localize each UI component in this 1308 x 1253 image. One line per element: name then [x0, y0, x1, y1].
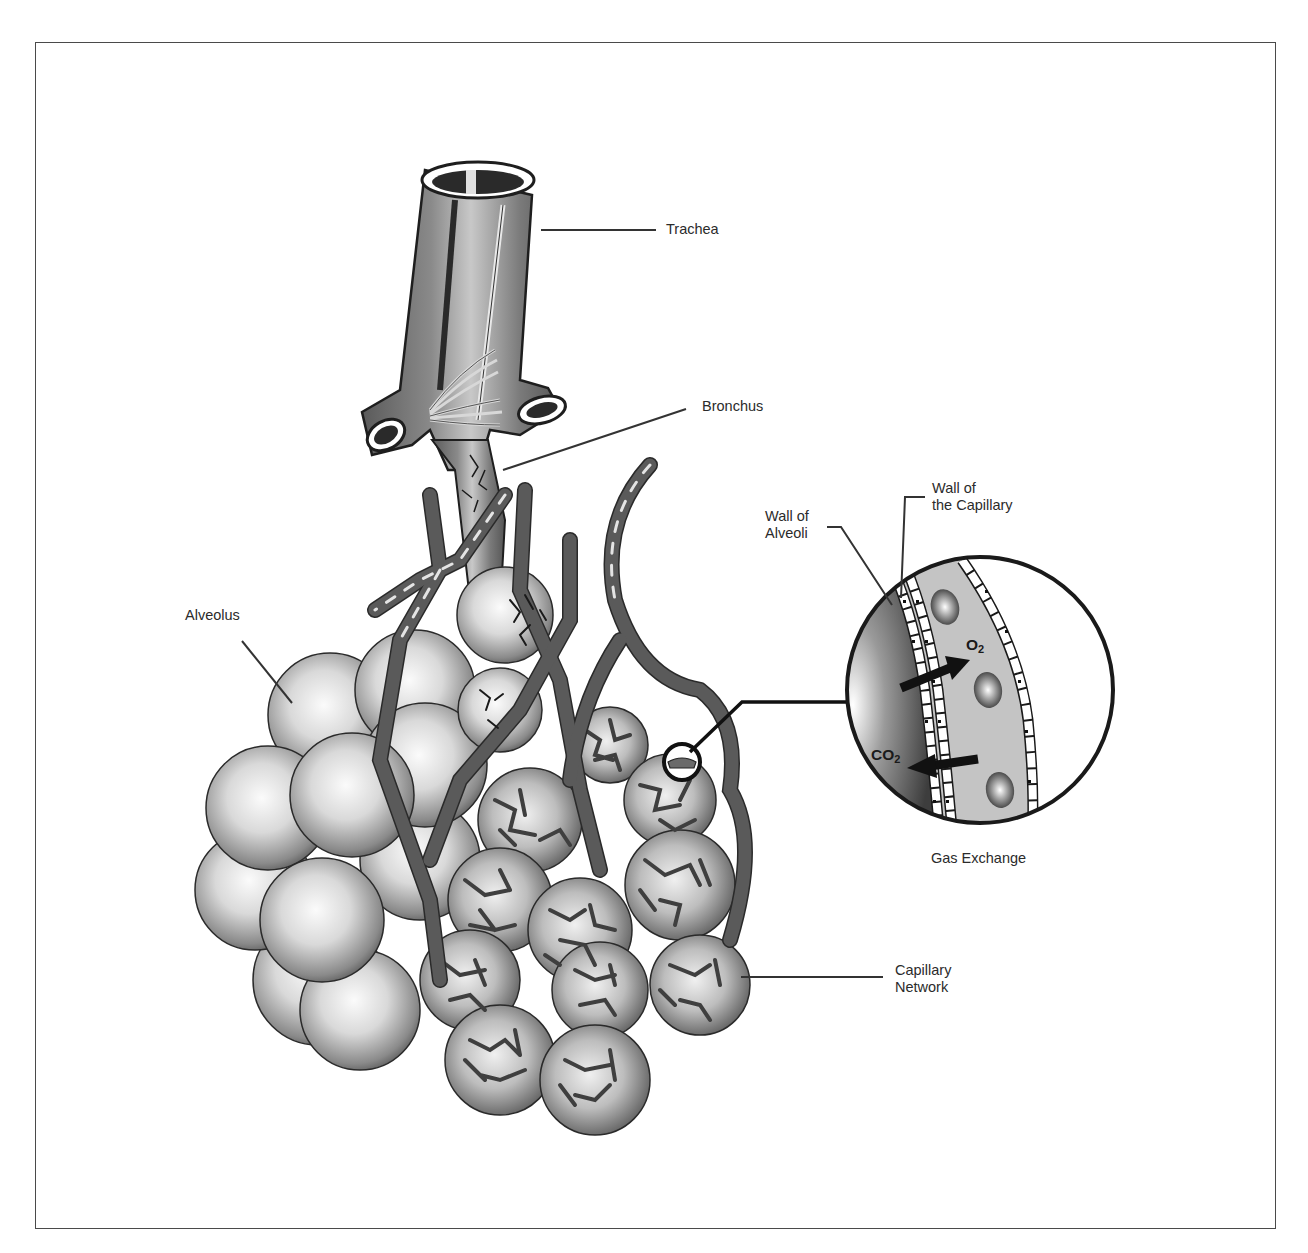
wall-of-alveoli-leader [827, 527, 892, 605]
carbon-dioxide-symbol: CO [871, 746, 894, 763]
magnifier-pointer [664, 702, 848, 780]
label-bronchus: Bronchus [702, 398, 763, 415]
label-wall-of-capillary-line1: Wall of [932, 480, 1013, 497]
label-wall-of-alveoli-line1: Wall of [765, 508, 809, 525]
label-oxygen: O2 [966, 636, 984, 658]
oxygen-symbol: O [966, 636, 978, 653]
label-wall-of-alveoli-line2: Alveoli [765, 525, 809, 542]
label-wall-of-capillary-line2: the Capillary [932, 497, 1013, 514]
label-wall-of-alveoli: Wall of Alveoli [765, 508, 809, 542]
gas-exchange-magnifier [830, 540, 1113, 840]
oxygen-subscript: 2 [978, 643, 984, 655]
carbon-dioxide-subscript: 2 [894, 753, 900, 765]
label-capillary-network-line1: Capillary [895, 962, 951, 979]
label-carbon-dioxide: CO2 [871, 746, 900, 768]
label-wall-of-capillary: Wall of the Capillary [932, 480, 1013, 514]
trachea-shape [362, 162, 569, 470]
label-capillary-network: Capillary Network [895, 962, 951, 996]
label-alveolus: Alveolus [185, 607, 240, 624]
label-trachea: Trachea [666, 221, 719, 238]
label-capillary-network-line2: Network [895, 979, 951, 996]
label-gas-exchange: Gas Exchange [931, 850, 1026, 867]
anatomy-figure: Trachea Bronchus Alveolus Wall of Alveol… [0, 0, 1308, 1253]
alveoli-illustration [0, 0, 1308, 1253]
